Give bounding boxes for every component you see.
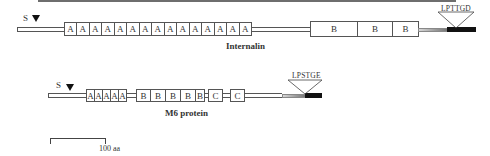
m6-protein-title: M6 protein — [165, 108, 208, 118]
scale-bar-line — [50, 138, 106, 139]
m6-motif-pointer-icon — [0, 0, 490, 156]
scale-bar-label: 100 aa — [99, 144, 120, 153]
scale-bar-tick-left — [50, 138, 51, 144]
